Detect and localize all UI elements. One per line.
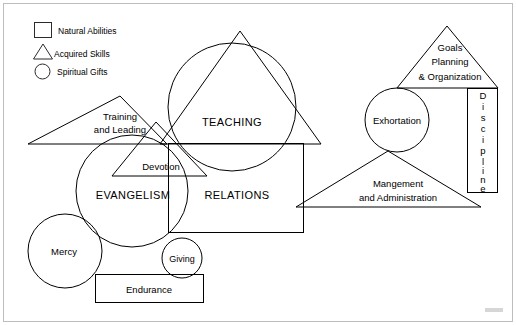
square-icon bbox=[35, 23, 52, 38]
legend: Natural Abilities Acquired Skills Spirit… bbox=[34, 23, 117, 80]
corner-watermark bbox=[485, 308, 503, 312]
legend-label-acquired-skills: Acquired Skills bbox=[54, 49, 110, 59]
discipline-letter-3: c bbox=[481, 123, 486, 134]
discipline-letter-2: s bbox=[481, 112, 486, 123]
label-mercy: Mercy bbox=[51, 246, 77, 257]
legend-label-spiritual-gifts: Spiritual Gifts bbox=[57, 67, 108, 77]
label-teaching: TEACHING bbox=[202, 116, 262, 128]
label-goals: Goals bbox=[438, 42, 463, 53]
label-relations: RELATIONS bbox=[204, 189, 269, 201]
label-management: Mangement bbox=[373, 178, 424, 189]
shape-teaching-circle bbox=[168, 43, 296, 171]
label-training: Training bbox=[103, 111, 137, 122]
label-giving: Giving bbox=[169, 254, 195, 264]
circle-icon bbox=[35, 64, 50, 79]
label-and-leading: and Leading bbox=[94, 124, 146, 135]
diagram-canvas: Natural Abilities Acquired Skills Spirit… bbox=[0, 0, 516, 325]
label-evangelism: EVANGELISM bbox=[96, 189, 171, 201]
legend-label-natural-abilities: Natural Abilities bbox=[58, 26, 117, 36]
triangle-icon bbox=[34, 44, 53, 59]
discipline-letter-1: i bbox=[482, 101, 484, 112]
label-devotion: Devotion bbox=[142, 161, 180, 172]
label-endurance: Endurance bbox=[126, 284, 172, 295]
label-discipline: D i s c i p l i n e bbox=[480, 90, 487, 194]
discipline-letter-5: p bbox=[480, 145, 485, 156]
label-exhortation: Exhortation bbox=[373, 115, 421, 126]
label-organization: & Organization bbox=[419, 71, 482, 82]
discipline-letter-0: D bbox=[480, 90, 487, 101]
label-planning: Planning bbox=[432, 56, 469, 67]
diagram-svg: Natural Abilities Acquired Skills Spirit… bbox=[0, 0, 516, 325]
discipline-letter-9: e bbox=[480, 183, 485, 194]
label-administration: and Administration bbox=[359, 192, 437, 203]
discipline-letter-4: i bbox=[482, 134, 484, 145]
